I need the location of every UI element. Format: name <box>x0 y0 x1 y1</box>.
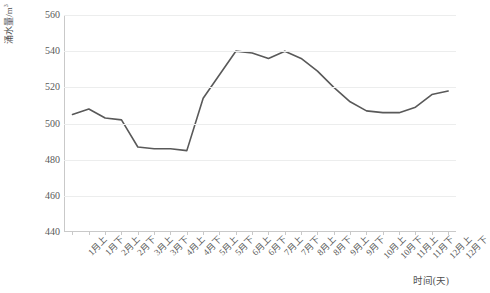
y-axis-tick-label: 540 <box>22 46 60 56</box>
gridline <box>64 160 456 161</box>
gridline <box>64 124 456 125</box>
gridline <box>64 15 456 16</box>
gridline <box>64 51 456 52</box>
x-axis-tick-labels: 1月上1月下2月上2月下3月上3月下4月上4月下5月上5月下6月上6月下7月上7… <box>64 233 464 278</box>
y-axis-tick-label: 440 <box>22 227 60 237</box>
gridline <box>64 87 456 88</box>
gridline <box>64 196 456 197</box>
y-axis-title: 涌水量/m3 <box>2 0 18 74</box>
x-axis-title: 时间(天) <box>413 273 449 287</box>
y-axis-tick-label: 460 <box>22 191 60 201</box>
y-axis-title-superscript: 3 <box>3 4 9 7</box>
y-axis-title-text: 涌水量/m <box>4 7 14 44</box>
y-axis-tick-label: 480 <box>22 155 60 165</box>
y-axis-tick-label: 560 <box>22 10 60 20</box>
y-axis-tick-label: 500 <box>22 119 60 129</box>
plot-area <box>64 15 456 232</box>
y-axis-tick-labels: 440460480500520540560 <box>20 0 60 293</box>
y-axis-tick-label: 520 <box>22 82 60 92</box>
